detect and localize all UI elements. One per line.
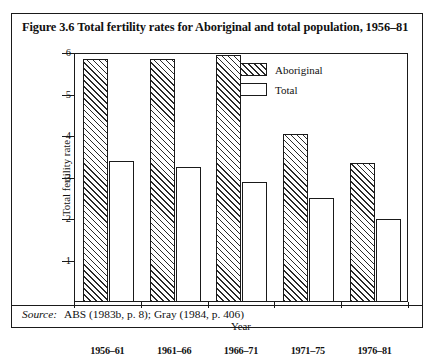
y-tick-label: 5 [66,89,71,100]
plot-area: Total fertility rate 123456 1956–611961–… [74,53,408,302]
legend-label: Aboriginal [275,64,323,76]
legend-item: Total [240,83,323,96]
x-tick-label: 1956–61 [90,345,124,356]
bar-total [176,167,201,302]
y-tick-label: 3 [66,172,71,183]
chart-legend: AboriginalTotal [240,63,323,103]
bar-group [341,53,408,302]
legend-swatch-aboriginal [240,63,267,76]
y-tick-label: 6 [66,48,71,59]
bar-total [309,198,334,302]
x-tick-label: 1976–81 [357,345,391,356]
x-axis-title: Year [74,320,408,332]
bar-aboriginal [150,59,175,302]
legend-label: Total [275,84,297,96]
x-tick-label: 1971–75 [291,345,325,356]
x-tick-label: 1961–66 [157,345,191,356]
bar-series-container [74,53,408,302]
bar-aboriginal [350,163,375,302]
bar-aboriginal [83,59,108,302]
y-tick-label: 1 [66,255,71,266]
bar-group [74,53,141,302]
bar-total [242,182,267,302]
source-label: Source: [22,308,57,320]
bar-aboriginal [283,134,308,302]
source-citation: ABS (1983b, p. 8); Gray (1984, p. 406) [64,308,244,320]
source-note: Source:ABS (1983b, p. 8); Gray (1984, p.… [22,308,244,320]
source-divider [12,305,422,306]
y-tick-label: 2 [66,214,71,225]
legend-swatch-total [240,83,267,96]
legend-item: Aboriginal [240,63,323,76]
bar-aboriginal [216,55,241,302]
x-tick-label: 1966–71 [224,345,258,356]
figure-frame: Figure 3.6 Total fertility rates for Abo… [11,13,423,328]
bar-total [109,161,134,302]
y-tick-label: 4 [66,131,71,142]
figure-title: Figure 3.6 Total fertility rates for Abo… [22,20,408,35]
bar-total [376,219,401,302]
bar-group [141,53,208,302]
